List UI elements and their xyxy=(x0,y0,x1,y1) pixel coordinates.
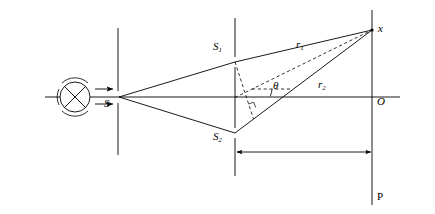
ray-S-to-S1 xyxy=(119,62,235,97)
label-source-slit: S xyxy=(104,98,110,109)
diverging-rays-group xyxy=(119,62,235,133)
label-slit-lower: S2 xyxy=(213,131,222,143)
observation-screen-group xyxy=(370,10,373,205)
label-slit-upper-subscript: 1 xyxy=(219,46,222,53)
physics-diagram: S S1 S2 r1 r2 θ x O P xyxy=(0,0,435,214)
label-point-origin: O xyxy=(377,96,385,107)
label-source-slit-text: S xyxy=(104,97,110,109)
label-ray-upper: r1 xyxy=(296,39,304,51)
label-slit-lower-subscript: 2 xyxy=(219,136,222,143)
label-ray-lower-subscript: 2 xyxy=(322,84,325,91)
diagram-canvas xyxy=(0,0,435,214)
label-screen-text: P xyxy=(377,190,383,202)
label-ray-upper-subscript: 1 xyxy=(300,44,303,51)
label-ray-lower: r2 xyxy=(318,79,326,91)
light-source-group xyxy=(57,78,90,116)
point-x-marker xyxy=(370,28,373,31)
label-angle-theta-text: θ xyxy=(273,79,278,91)
angle-theta-arc xyxy=(270,89,272,96)
label-point-x: x xyxy=(378,23,383,34)
label-point-origin-text: O xyxy=(377,95,385,107)
dashed-perpendicular-from-S1 xyxy=(235,62,254,119)
label-slit-upper: S1 xyxy=(213,41,222,53)
ray-S-to-S2 xyxy=(119,97,235,133)
label-screen: P xyxy=(377,191,383,202)
label-angle-theta: θ xyxy=(273,80,278,91)
label-point-x-text: x xyxy=(378,22,383,34)
